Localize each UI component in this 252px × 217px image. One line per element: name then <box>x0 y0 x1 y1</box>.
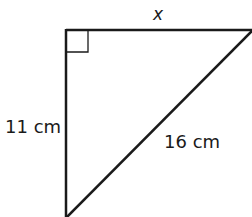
hypotenuse-label: 16 cm <box>164 133 220 151</box>
triangle-svg <box>0 0 252 217</box>
left-side-label: 11 cm <box>5 118 61 136</box>
right-angle-icon <box>66 30 88 52</box>
right-triangle-diagram: x 11 cm 16 cm <box>0 0 252 217</box>
hypotenuse <box>67 31 252 217</box>
top-side-label: x <box>153 6 163 23</box>
